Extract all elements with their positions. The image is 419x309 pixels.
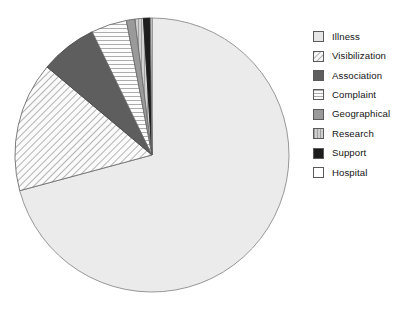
chart-legend: IllnessVisibilizationAssociationComplain… [313,27,417,182]
legend-swatch-visibilization-icon [313,51,324,62]
legend-item-complaint[interactable]: Complaint [313,85,417,104]
legend-swatch-hospital-icon [313,167,324,178]
legend-swatch-support-icon [313,148,324,159]
legend-swatch-complaint-icon [313,89,324,100]
legend-item-hospital[interactable]: Hospital [313,163,417,182]
pie-chart-figure: IllnessVisibilizationAssociationComplain… [0,0,419,309]
legend-label: Geographical [332,109,390,119]
legend-label: Visibilization [332,51,386,61]
legend-label: Support [332,148,366,158]
legend-item-visibilization[interactable]: Visibilization [313,46,417,65]
legend-swatch-geographical-icon [313,109,324,120]
legend-item-association[interactable]: Association [313,66,417,85]
legend-swatch-research-icon [313,128,324,139]
legend-item-research[interactable]: Research [313,124,417,143]
legend-label: Research [332,129,374,139]
legend-item-illness[interactable]: Illness [313,27,417,46]
legend-item-geographical[interactable]: Geographical [313,105,417,124]
pie-slice-group [15,18,289,292]
legend-label: Hospital [332,168,367,178]
legend-label: Illness [332,32,360,42]
legend-swatch-association-icon [313,70,324,81]
legend-swatch-illness-icon [313,31,324,42]
legend-label: Complaint [332,90,376,100]
legend-label: Association [332,71,382,81]
legend-item-support[interactable]: Support [313,143,417,162]
